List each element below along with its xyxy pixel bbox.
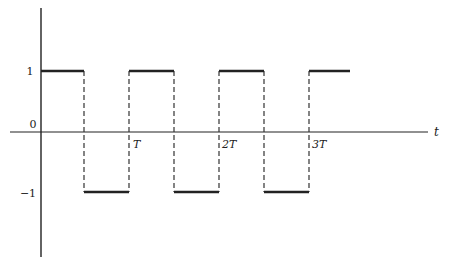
x-tick-label-2T: 2T bbox=[221, 138, 238, 151]
y-tick-label-neg1: −1 bbox=[20, 187, 36, 200]
x-tick-label-T: T bbox=[133, 138, 142, 151]
x-axis-label: t bbox=[434, 125, 439, 139]
y-tick-label-1: 1 bbox=[27, 65, 34, 78]
x-tick-label-3T: 3T bbox=[312, 138, 328, 151]
y-tick-label-0: 0 bbox=[30, 118, 37, 131]
square-wave-diagram: 1 0 −1 T 2T 3T t bbox=[0, 0, 450, 267]
